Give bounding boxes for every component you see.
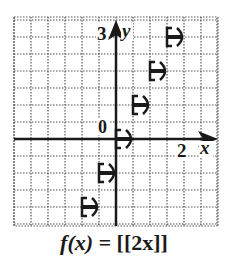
step-segment bbox=[150, 62, 165, 80]
step-segment bbox=[167, 28, 182, 46]
y-tick-label: 3 bbox=[97, 23, 107, 44]
y-axis-label: y bbox=[120, 20, 131, 41]
function-caption: f(x) = [[2x]] bbox=[0, 226, 228, 260]
origin-label: 0 bbox=[98, 117, 107, 137]
step-segment bbox=[82, 198, 97, 216]
axes bbox=[14, 20, 218, 226]
step-segment bbox=[116, 130, 131, 148]
step-segment bbox=[133, 96, 148, 114]
caption-lhs: f(x) = bbox=[60, 230, 117, 255]
x-tick-label: 2 bbox=[177, 140, 187, 161]
x-axis-label: x bbox=[199, 137, 210, 158]
caption-rhs: [[2x]] bbox=[117, 230, 168, 255]
step-segment bbox=[99, 164, 114, 182]
